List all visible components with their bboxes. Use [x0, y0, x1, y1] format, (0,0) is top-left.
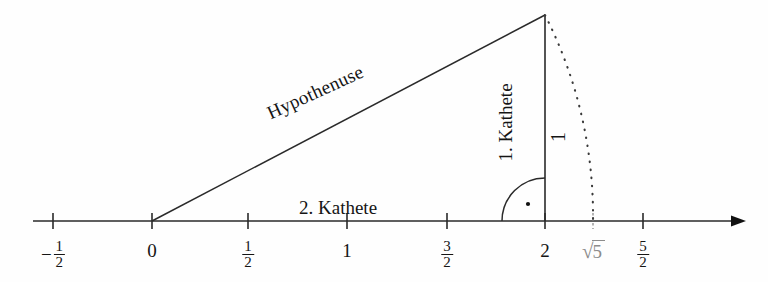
label-kathete-2: 2. Kathete: [299, 198, 377, 217]
right-angle-dot-icon: [526, 202, 530, 206]
tick-neg-half-label: −12: [41, 239, 65, 271]
tick-two-label: 2: [540, 241, 550, 260]
tick-five-halves-label: 52: [637, 239, 649, 271]
tick-sqrt5-label: √5: [581, 241, 605, 262]
tick-three-halves-label: 32: [441, 239, 453, 271]
figure-canvas: [0, 0, 768, 282]
axis-right-arrow-icon: [731, 216, 746, 227]
tick-zero-label: 0: [147, 241, 157, 260]
dotted-radius-arc: [545, 15, 593, 221]
tick-half-label: 12: [242, 239, 254, 271]
triangle-edge-hypotenuse: [152, 15, 545, 221]
right-angle-arc-icon: [502, 178, 545, 221]
label-arc-radius-one: 1: [548, 132, 568, 142]
label-kathete-1: 1. Kathete: [496, 83, 515, 161]
sqrt5-construction-figure: Hypothenuse 1. Kathete 2. Kathete 1 −120…: [0, 0, 768, 282]
tick-one-label: 1: [342, 241, 352, 260]
